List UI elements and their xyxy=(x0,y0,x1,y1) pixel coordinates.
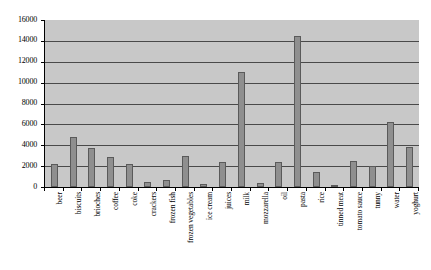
bar xyxy=(350,161,357,187)
x-axis-tick-mark xyxy=(287,188,288,191)
x-axis-tick-mark xyxy=(156,188,157,191)
bar xyxy=(369,166,376,187)
x-axis-tick-mark xyxy=(343,188,344,191)
x-axis-category-label: biscuits xyxy=(75,192,83,214)
bar xyxy=(70,137,77,187)
bar xyxy=(275,162,282,187)
bar-chart: 0200040006000800010000120001400016000 be… xyxy=(0,0,431,270)
bar xyxy=(182,156,189,187)
x-axis-category-label: tinned meat xyxy=(337,192,345,226)
x-axis-tick-mark xyxy=(231,188,232,191)
bar xyxy=(313,172,320,187)
y-axis-tick-label: 4000 xyxy=(22,141,37,149)
bar xyxy=(406,147,413,187)
bar xyxy=(257,183,264,187)
x-axis-category-label: yoghurt xyxy=(412,192,420,215)
x-axis-category-label: rice xyxy=(318,192,326,203)
x-axis-category-label: water xyxy=(393,192,401,208)
bar xyxy=(238,72,245,187)
bar xyxy=(331,185,338,187)
x-axis-category-label: juices xyxy=(225,192,233,209)
x-axis-tick-mark xyxy=(212,188,213,191)
x-axis-tick-mark xyxy=(268,188,269,191)
x-axis-category-label: brioches xyxy=(94,192,102,217)
y-axis-tick-label: 12000 xyxy=(18,57,37,65)
x-axis-tick-mark xyxy=(138,188,139,191)
y-axis: 0200040006000800010000120001400016000 xyxy=(0,0,40,270)
x-axis-category-label: oil xyxy=(281,192,289,200)
y-axis-tick-label: 14000 xyxy=(18,36,37,44)
y-axis-tick-label: 10000 xyxy=(18,78,37,86)
x-axis-category-label: mozzarella xyxy=(262,192,270,224)
x-axis-category-label: coffee xyxy=(112,192,120,210)
x-axis-tick-mark xyxy=(306,188,307,191)
bar xyxy=(88,148,95,187)
x-axis-tick-mark xyxy=(399,188,400,191)
bar xyxy=(219,162,226,187)
x-axis-tick-mark xyxy=(250,188,251,191)
x-axis-category-label: coke xyxy=(131,192,139,206)
x-axis-tick-mark xyxy=(119,188,120,191)
bars-container xyxy=(45,20,419,187)
x-axis-category-label: tunny xyxy=(374,192,382,209)
x-axis-labels: beerbiscuitsbriochescoffeecokecrackersfr… xyxy=(44,192,419,270)
x-axis-tick-mark xyxy=(81,188,82,191)
bar xyxy=(144,182,151,187)
x-axis-tick-mark xyxy=(418,188,419,191)
bar xyxy=(107,157,114,187)
x-axis-tick-mark xyxy=(362,188,363,191)
x-axis-category-label: beer xyxy=(56,192,64,205)
x-axis-category-label: frozen fish xyxy=(169,192,177,223)
bar xyxy=(294,36,301,187)
x-axis-category-label: pasta xyxy=(299,192,307,207)
x-axis-tick-mark xyxy=(44,188,45,191)
x-axis-category-label: ice cream xyxy=(206,192,214,220)
x-axis-tick-mark xyxy=(194,188,195,191)
bar xyxy=(387,122,394,187)
y-axis-tick-label: 8000 xyxy=(22,99,37,107)
x-axis-tick-mark xyxy=(381,188,382,191)
x-axis-tick-mark xyxy=(325,188,326,191)
bar xyxy=(163,180,170,187)
y-axis-tick-label: 2000 xyxy=(22,162,37,170)
bar xyxy=(126,164,133,187)
plot-area xyxy=(44,20,419,188)
y-axis-tick-label: 0 xyxy=(33,183,37,191)
x-axis-tick-mark xyxy=(100,188,101,191)
y-axis-tick-label: 16000 xyxy=(18,16,37,24)
y-axis-tick-label: 6000 xyxy=(22,120,37,128)
x-axis-category-label: milk xyxy=(243,192,251,205)
bar xyxy=(200,184,207,187)
x-axis-category-label: frozen vegetables xyxy=(187,192,195,243)
x-axis-category-label: tomato sauce xyxy=(356,192,364,230)
bar xyxy=(51,164,58,187)
x-axis-tick-mark xyxy=(175,188,176,191)
x-axis-category-label: crackers xyxy=(150,192,158,216)
